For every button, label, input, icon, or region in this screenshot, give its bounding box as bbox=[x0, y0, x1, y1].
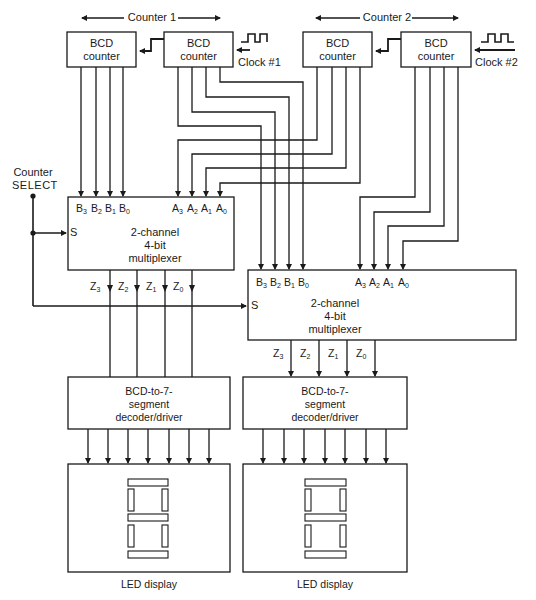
mux2-a0: A0 bbox=[398, 276, 409, 292]
decoder1-label: BCD-to-7-segmentdecoder/driver bbox=[68, 385, 230, 424]
mux2-b1: B1 bbox=[284, 276, 295, 292]
counter2-units-label: BCDcounter bbox=[401, 37, 471, 63]
clock1-waveform bbox=[241, 34, 267, 42]
seven-segment-digit-1 bbox=[128, 479, 168, 558]
clock2-label: Clock #2 bbox=[475, 56, 518, 69]
counter1-tens-label: BCDcounter bbox=[67, 37, 136, 63]
mux1-a3: A3 bbox=[172, 202, 183, 218]
mux2-b2: B2 bbox=[270, 276, 281, 292]
counter1-units-label: BCDcounter bbox=[164, 37, 233, 63]
mux2-a2: A2 bbox=[369, 276, 380, 292]
mux1-b1: B1 bbox=[105, 202, 116, 218]
mux1-z2: Z2 bbox=[118, 280, 128, 296]
mux2-select-pin: S bbox=[251, 299, 258, 312]
diagram-wiring bbox=[0, 0, 536, 600]
display1-label: LED display bbox=[68, 578, 230, 591]
counter1-carry-wire bbox=[140, 39, 164, 51]
mux1-z1: Z1 bbox=[146, 280, 156, 296]
mux1-a1: A1 bbox=[201, 202, 212, 218]
mux1-select-pin: S bbox=[70, 226, 77, 239]
mux1-b2: B2 bbox=[91, 202, 102, 218]
mux2-z0: Z0 bbox=[356, 347, 366, 363]
mux2-b0: B0 bbox=[298, 276, 309, 292]
mux2-z2: Z2 bbox=[300, 347, 310, 363]
mux1-a2: A2 bbox=[187, 202, 198, 218]
mux2-title: 2-channel4-bitmultiplexer bbox=[300, 297, 370, 336]
mux1-b3: B3 bbox=[76, 202, 87, 218]
display2-label: LED display bbox=[243, 578, 407, 591]
mux2-a3: A3 bbox=[355, 276, 366, 292]
mux1-b0: B0 bbox=[119, 202, 130, 218]
counter2-carry-wire bbox=[376, 39, 401, 51]
display1-box bbox=[68, 464, 230, 572]
mux1-a0: A0 bbox=[216, 202, 227, 218]
mux2-b3: B3 bbox=[256, 276, 267, 292]
mux1-title: 2-channel4-bitmultiplexer bbox=[120, 226, 190, 265]
mux2-z3: Z3 bbox=[273, 347, 283, 363]
clock1-label: Clock #1 bbox=[238, 56, 281, 69]
display2-box bbox=[243, 464, 407, 572]
mux2-a1: A1 bbox=[383, 276, 394, 292]
clock2-waveform bbox=[481, 34, 514, 42]
mux1-z3: Z3 bbox=[90, 280, 100, 296]
decoder2-label: BCD-to-7-segmentdecoder/driver bbox=[243, 385, 407, 424]
counter1-group-label: Counter 1 bbox=[126, 11, 178, 24]
mux2-z1: Z1 bbox=[328, 347, 338, 363]
counter2-group-label: Counter 2 bbox=[362, 11, 412, 24]
counter-select-label: CounterSELECT bbox=[12, 166, 54, 192]
counter2-tens-label: BCDcounter bbox=[303, 37, 372, 63]
mux1-z0: Z0 bbox=[173, 280, 183, 296]
seven-segment-digit-2 bbox=[305, 479, 346, 558]
